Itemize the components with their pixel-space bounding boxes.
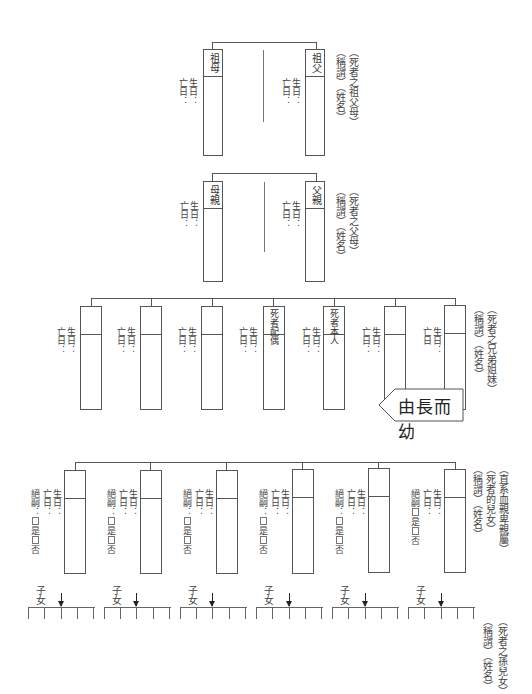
heir-no-checkbox[interactable] [412,527,419,535]
heir-status: 絕嗣：是否 [182,489,192,554]
heir-yes-checkbox[interactable] [412,508,419,516]
heir-status: 絕嗣：是否 [106,489,116,554]
grandchildren-group-label: 子女 [34,585,44,605]
grandchildren-slots[interactable] [256,607,323,619]
birth-label: 生日： [52,489,62,516]
child-box[interactable] [368,468,390,573]
grandchildren-slots[interactable] [28,607,95,619]
child-box[interactable] [216,470,238,574]
father-title: 父親 [310,185,320,205]
sibling-box[interactable] [201,306,223,410]
grandchildren-subcaption: （稱謂）（姓名） [480,616,492,691]
heir-yes-checkbox[interactable] [336,517,343,525]
connector-tick [395,298,396,306]
grandchildren-slots[interactable] [104,607,171,619]
death-label: 亡日： [238,327,248,354]
connector-tick [150,462,151,470]
child-box[interactable] [140,470,162,574]
birth-label: 生日： [432,327,442,354]
grandchildren-slots[interactable] [332,607,399,619]
grandchildren-group-label: 子女 [338,585,348,605]
spouse-box[interactable]: 死者配偶 [263,306,285,410]
grandchildren-slots[interactable] [408,607,475,619]
heir-yes-checkbox[interactable] [260,517,267,525]
grandchildren-group-label: 子女 [262,585,272,605]
birth-label: 生日： [291,201,301,228]
couple-divider [264,182,265,252]
parents-subcaption: （稱謂）（姓名） [333,186,345,261]
heir-no-checkbox[interactable] [260,536,267,544]
birth-label: 生日： [66,327,76,354]
grandparents-connector [212,42,317,43]
heir-status: 絕嗣是否 [410,489,420,545]
mother-box[interactable]: 母親 [203,181,223,282]
heir-no-checkbox[interactable] [32,536,39,544]
grandfather-box[interactable]: 祖父 [305,49,325,156]
parents-connector [212,173,317,174]
death-label: 亡日： [118,489,128,516]
birth-label: 生日： [280,489,290,516]
death-label: 亡日： [194,489,204,516]
siblings-subcaption: （稱謂）（姓名） [471,304,483,379]
death-label: 亡日： [346,489,356,516]
deceased-box[interactable]: 死者本人 [323,306,345,410]
down-arrow-icon [136,593,137,606]
heir-yes-checkbox[interactable] [184,517,191,525]
heir-status: 絕嗣：是否 [334,489,344,554]
grandmother-title: 祖母 [208,53,218,73]
death-label: 亡日： [177,327,187,354]
grandparents-subcaption: （稱謂）（姓名） [333,47,345,122]
spouse-title: 死者配偶 [269,309,279,329]
death-label: 亡日： [281,201,291,228]
connector-tick [212,42,213,49]
birth-label: 生日： [204,489,214,516]
child-box[interactable] [292,469,314,574]
heir-status: 絕嗣：是否 [30,489,40,554]
connector-tick [226,462,227,470]
grandparents-caption: （死者之祖父母） [346,47,358,127]
birth-label: 生日： [126,327,136,354]
down-arrow-icon [61,593,62,606]
sibling-box[interactable] [140,306,162,410]
death-label: 亡日： [178,78,188,105]
heir-no-checkbox[interactable] [108,536,115,544]
sibling-box[interactable] [80,306,102,410]
heir-no-checkbox[interactable] [336,536,343,544]
death-label: 亡日： [179,201,189,228]
children-connector [75,462,456,463]
death-label: 亡日： [116,327,126,354]
grandfather-title: 祖父 [310,53,320,73]
down-arrow-icon [441,593,442,606]
connector-tick [316,42,317,49]
down-arrow-icon [365,593,366,606]
grandmother-box[interactable]: 祖母 [203,49,223,156]
father-box[interactable]: 父親 [305,181,325,282]
siblings-caption: （死者之兄弟姐妹） [484,304,496,394]
grandchildren-group-label: 子女 [414,585,424,605]
child-box[interactable] [64,470,86,574]
heir-yes-checkbox[interactable] [108,517,115,525]
death-label: 亡日： [422,489,432,516]
birth-label: 生日： [189,201,199,228]
death-label: 亡日： [281,78,291,105]
death-label: 亡日： [42,489,52,516]
eldest-to-youngest-banner: 由長而幼 [378,388,464,422]
death-label: 亡日： [56,327,66,354]
connector-tick [212,173,213,181]
connector-tick [273,298,274,306]
birth-label: 生日： [291,78,301,105]
death-label: 亡日： [270,489,280,516]
child-box[interactable] [444,469,466,573]
heir-no-checkbox[interactable] [184,536,191,544]
children-subcaption: （死者的兒女） [483,464,495,534]
couple-divider [263,50,264,122]
heir-yes-checkbox[interactable] [32,517,39,525]
grandchildren-slots[interactable] [180,607,247,619]
birth-label: 生日： [187,327,197,354]
death-label: 亡日： [361,327,371,354]
birth-label: 生日： [371,327,381,354]
connector-tick [75,462,76,470]
down-arrow-icon [212,593,213,606]
connector-tick [212,298,213,306]
children-subcaption-2: （稱謂）（姓名） [470,464,482,539]
